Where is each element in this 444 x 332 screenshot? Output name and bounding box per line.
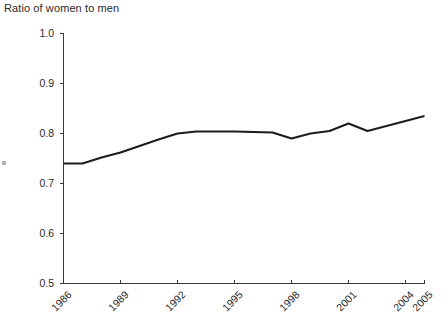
y-tick-label: 0.9 <box>24 78 54 89</box>
data-series-group <box>64 116 425 164</box>
y-tick-label: 0.7 <box>24 178 54 189</box>
y-tick-label: 0.6 <box>24 228 54 239</box>
y-tick-label: 0.8 <box>24 128 54 139</box>
axes-group <box>60 34 425 284</box>
y-tick-label: 1.0 <box>24 28 54 39</box>
data-line-ratio-women-to-men <box>64 116 425 164</box>
plot-area <box>0 0 444 332</box>
chart-container: Ratio of women to men 1.00.90.80.70.60.5… <box>0 0 444 332</box>
y-tick-label: 0.5 <box>24 278 54 289</box>
